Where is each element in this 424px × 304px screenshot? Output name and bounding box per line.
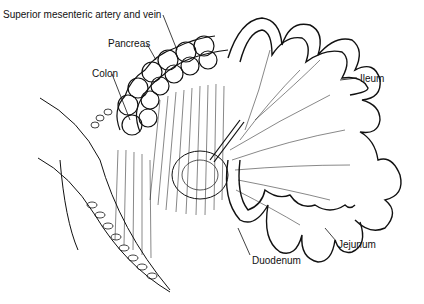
label-duodenum: Duodenum — [252, 255, 301, 266]
label-colon: Colon — [92, 68, 118, 79]
anatomical-illustration: Superior mesenteric artery and vein Panc… — [0, 0, 424, 304]
line-art-drawing — [0, 0, 424, 304]
label-superior-mesenteric-artery-and-vein: Superior mesenteric artery and vein — [3, 9, 161, 20]
label-jejunum: Jejunum — [338, 239, 376, 250]
label-pancreas: Pancreas — [108, 38, 150, 49]
label-ileum: Ileum — [360, 73, 384, 84]
